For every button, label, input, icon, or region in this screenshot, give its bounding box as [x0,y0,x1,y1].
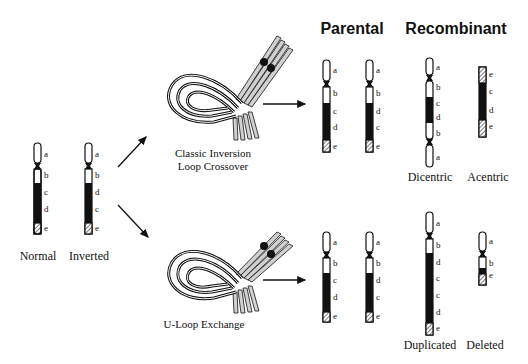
gene-label: d [333,122,338,132]
gene-label: c [436,290,440,300]
gene-label: b [376,88,381,98]
gene-label: a [436,152,440,162]
gene-label: c [436,98,440,108]
gene-label: d [436,112,441,122]
gene-label: a [436,218,440,228]
normal-label: Normal [20,249,57,264]
gene-label: d [489,105,494,115]
deleted-label: Deleted [466,338,503,353]
arrow-to-classic [118,137,146,167]
gene-label: d [376,275,381,285]
gene-label: e [436,323,440,333]
gene-label: c [333,106,337,116]
normal-chromosome [34,143,41,234]
u-loop-exchange [169,232,293,313]
gene-label: e [489,69,493,79]
parental-normal-bottom [323,232,330,322]
gene-label: e [44,223,48,233]
gene-label: d [44,204,49,214]
gene-label: e [376,311,380,321]
gene-label: a [376,65,380,75]
inverted-label: Inverted [69,249,109,264]
arrow-to-uloop [118,205,148,237]
deleted-chromosome [479,232,486,285]
acentric-chromosome [479,67,486,137]
gene-label: b [376,258,381,268]
gene-label: d [95,187,100,197]
gene-label: a [436,62,440,72]
parental-normal-top [323,60,330,152]
gene-label: a [376,237,380,247]
gene-label: c [436,273,440,283]
dicentric-label: Dicentric [408,170,453,185]
duplicated-label: Duplicated [404,338,457,353]
gene-label: b [95,170,100,180]
gene-label: a [489,236,493,246]
duplicated-chromosome [426,212,433,335]
gene-label: a [95,149,99,159]
gene-label: e [333,141,337,151]
gene-label: c [489,86,493,96]
gene-label: b [333,88,338,98]
parental-inverted-bottom [366,232,373,322]
classic-loop-caption: Classic Inversion Loop Crossover [175,147,251,173]
parental-header: Parental [320,20,383,38]
gene-label: a [44,149,48,159]
classic-inversion-loop [168,36,293,140]
gene-label: c [333,275,337,285]
dicentric-chromosome [426,58,433,167]
gene-label: d [333,292,338,302]
gene-label: e [95,223,99,233]
inverted-chromosome [85,143,92,234]
acentric-label: Acentric [467,170,508,185]
gene-label: e [333,311,337,321]
gene-label: c [95,204,99,214]
gene-label: b [436,240,441,250]
gene-label: e [489,121,493,131]
gene-label: c [376,122,380,132]
recombinant-header: Recombinant [405,20,506,38]
gene-label: b [333,258,338,268]
gene-label: b [489,258,494,268]
gene-label: a [333,65,337,75]
gene-label: e [376,141,380,151]
gene-label: b [44,170,49,180]
gene-label: e [489,270,493,280]
gene-label: c [376,292,380,302]
uloop-caption: U-Loop Exchange [164,318,245,331]
gene-label: d [376,106,381,116]
gene-label: c [44,187,48,197]
gene-label: d [436,307,441,317]
inversion-crossover-diagram: Parental Recombinant a b c d e a b d c e… [0,0,528,364]
parental-inverted-top [366,60,373,152]
gene-label: b [436,82,441,92]
gene-label: a [333,237,337,247]
gene-label: b [436,128,441,138]
gene-label: d [436,257,441,267]
